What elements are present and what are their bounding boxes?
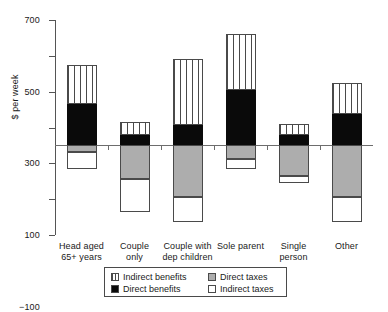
category-label: Singleperson bbox=[267, 241, 320, 263]
bar-segment-direct-taxes[interactable] bbox=[120, 145, 150, 178]
bar-segment-direct-benefits[interactable] bbox=[226, 90, 256, 146]
legend-label: Indirect taxes bbox=[220, 284, 274, 294]
bar-group[interactable] bbox=[332, 20, 362, 235]
bar-segment-indirect-taxes[interactable] bbox=[279, 176, 309, 183]
category-label-line: person bbox=[267, 252, 320, 263]
bar-segment-direct-taxes[interactable] bbox=[226, 145, 256, 158]
legend-label: Direct taxes bbox=[220, 272, 268, 282]
y-tick: −100 bbox=[49, 163, 55, 164]
x-tick bbox=[267, 145, 268, 150]
x-tick bbox=[108, 145, 109, 150]
y-axis-line bbox=[55, 20, 56, 235]
y-axis-title: $ per week bbox=[10, 52, 20, 142]
bar-segment-indirect-benefits[interactable] bbox=[279, 124, 309, 135]
legend-swatch-indirect-benefits-icon bbox=[111, 273, 119, 281]
y-tick: 100 bbox=[49, 128, 55, 129]
category-label-line: Other bbox=[320, 241, 373, 252]
bar-group[interactable] bbox=[67, 20, 97, 235]
legend-swatch-direct-taxes-icon bbox=[208, 273, 216, 281]
bar-segment-indirect-benefits[interactable] bbox=[332, 83, 362, 114]
bar-group[interactable] bbox=[226, 20, 256, 235]
category-label: Other bbox=[320, 241, 373, 252]
category-label-line: Sole parent bbox=[214, 241, 267, 252]
legend-swatch-indirect-taxes-icon bbox=[208, 285, 216, 293]
category-label-line: dep children bbox=[161, 252, 214, 263]
legend-item-direct-taxes[interactable]: Direct taxes bbox=[208, 271, 294, 283]
bar-segment-indirect-taxes[interactable] bbox=[226, 159, 256, 169]
category-label-line: Single bbox=[267, 241, 320, 252]
y-tick: −300 bbox=[49, 199, 55, 200]
plot-area: 700500300100−100−300−500 bbox=[55, 20, 373, 235]
bar-segment-direct-taxes[interactable] bbox=[279, 145, 309, 175]
legend-item-indirect-benefits[interactable]: Indirect benefits bbox=[111, 271, 208, 283]
category-label-line: Head aged bbox=[55, 241, 108, 252]
category-label-line: 65+ years bbox=[55, 252, 108, 263]
bar-segment-indirect-taxes[interactable] bbox=[67, 152, 97, 169]
category-label: Couple withdep children bbox=[161, 241, 214, 263]
y-tick-label: 700 bbox=[24, 15, 40, 25]
bar-group[interactable] bbox=[120, 20, 150, 235]
y-tick: 300 bbox=[49, 92, 55, 93]
category-label: Coupleonly bbox=[108, 241, 161, 263]
bar-segment-direct-taxes[interactable] bbox=[173, 145, 203, 197]
legend-label: Indirect benefits bbox=[123, 272, 187, 282]
y-tick: 500 bbox=[49, 56, 55, 57]
bar-segment-indirect-taxes[interactable] bbox=[120, 179, 150, 212]
bar-segment-indirect-benefits[interactable] bbox=[173, 59, 203, 125]
y-tick-label: 500 bbox=[24, 87, 40, 97]
legend-item-indirect-taxes[interactable]: Indirect taxes bbox=[208, 283, 294, 295]
category-label-line: Couple with bbox=[161, 241, 214, 252]
bar-segment-direct-benefits[interactable] bbox=[279, 135, 309, 146]
legend-item-direct-benefits[interactable]: Direct benefits bbox=[111, 283, 208, 295]
chart-container: $ per week 700500300100−100−300−500 Head… bbox=[0, 0, 388, 312]
bar-segment-indirect-benefits[interactable] bbox=[226, 34, 256, 90]
bar-segment-direct-benefits[interactable] bbox=[332, 114, 362, 145]
category-label: Head aged65+ years bbox=[55, 241, 108, 263]
bar-segment-direct-benefits[interactable] bbox=[173, 125, 203, 146]
bar-segment-indirect-benefits[interactable] bbox=[120, 122, 150, 135]
chart-legend: Indirect benefitsDirect taxesDirect bene… bbox=[104, 267, 287, 297]
category-label-line: only bbox=[108, 252, 161, 263]
category-label-line: Couple bbox=[108, 241, 161, 252]
y-tick: −500 bbox=[49, 235, 55, 236]
legend-swatch-direct-benefits-icon bbox=[111, 285, 119, 293]
bar-segment-direct-benefits[interactable] bbox=[67, 104, 97, 145]
y-tick-label: −100 bbox=[19, 302, 40, 312]
y-tick-label: 300 bbox=[24, 158, 40, 168]
bar-group[interactable] bbox=[279, 20, 309, 235]
y-tick-label: 100 bbox=[24, 230, 40, 240]
bar-group[interactable] bbox=[173, 20, 203, 235]
legend-label: Direct benefits bbox=[123, 284, 181, 294]
x-tick bbox=[214, 145, 215, 150]
bar-segment-indirect-taxes[interactable] bbox=[332, 197, 362, 222]
bar-segment-indirect-taxes[interactable] bbox=[173, 197, 203, 221]
category-label: Sole parent bbox=[214, 241, 267, 252]
x-tick bbox=[320, 145, 321, 150]
bar-segment-indirect-benefits[interactable] bbox=[67, 65, 97, 104]
bar-segment-direct-taxes[interactable] bbox=[332, 145, 362, 197]
bar-segment-direct-benefits[interactable] bbox=[120, 135, 150, 146]
y-tick: 700 bbox=[49, 20, 55, 21]
x-tick bbox=[161, 145, 162, 150]
